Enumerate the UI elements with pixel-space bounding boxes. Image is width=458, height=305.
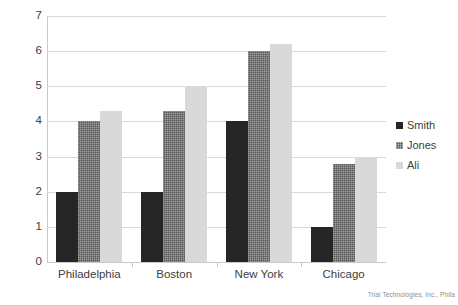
y-tick-label-3: 3 (12, 151, 42, 163)
bar-group (301, 16, 386, 262)
bar (141, 192, 163, 262)
legend-swatch-icon (396, 122, 403, 129)
bar (100, 111, 122, 262)
legend-item-ali[interactable]: Ali (396, 156, 456, 174)
x-tick-mark (301, 262, 302, 267)
y-tick-label-5: 5 (12, 80, 42, 92)
bar (226, 121, 248, 262)
bar (333, 164, 355, 262)
bar (355, 157, 377, 262)
x-tick-mark (217, 262, 218, 267)
legend-swatch-icon (396, 162, 403, 169)
x-axis-label-philadelphia: Philadelphia (47, 268, 132, 281)
legend: SmithJonesAli (396, 116, 456, 176)
legend-swatch-icon (396, 142, 403, 149)
legend-item-jones[interactable]: Jones (396, 136, 456, 154)
bar-group (217, 16, 302, 262)
plot-area (47, 16, 386, 262)
y-tick-label-6: 6 (12, 45, 42, 57)
bar (163, 111, 185, 262)
y-tick-label-7: 7 (12, 10, 42, 22)
y-tick-label-1: 1 (12, 221, 42, 233)
y-axis-ticks: 01234567 (6, 16, 42, 262)
bar (248, 51, 270, 262)
x-axis-label-boston: Boston (132, 268, 217, 281)
bar-group (47, 16, 132, 262)
y-tick-label-2: 2 (12, 186, 42, 198)
bar-group (132, 16, 217, 262)
x-axis-label-chicago: Chicago (301, 268, 386, 281)
bar (311, 227, 333, 262)
legend-label: Jones (407, 140, 436, 151)
bar-chart: 01234567 PhiladelphiaBostonNew YorkChica… (0, 0, 458, 305)
bar (56, 192, 78, 262)
legend-item-smith[interactable]: Smith (396, 116, 456, 134)
bar (185, 86, 207, 262)
x-axis-label-new-york: New York (217, 268, 302, 281)
y-tick-label-4: 4 (12, 115, 42, 127)
attribution-text: Trial Technologies, Inc., Phila (368, 291, 455, 299)
x-tick-mark (132, 262, 133, 267)
y-tick-label-0: 0 (12, 256, 42, 268)
legend-label: Ali (407, 160, 419, 171)
legend-label: Smith (407, 120, 435, 131)
bar (78, 121, 100, 262)
bar (270, 44, 292, 262)
